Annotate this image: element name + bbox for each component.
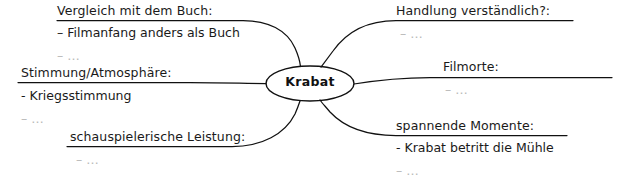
branch-heading-spannende: spannende Momente: [396, 119, 554, 136]
branch-heading-filmorte: Filmorte: [443, 60, 499, 77]
branch-item: – Filmanfang anders als Buch [57, 21, 240, 40]
branch-schauspielerische[interactable]: schauspielerische Leistung: – … [70, 130, 245, 167]
branch-item: – … [70, 147, 245, 167]
branch-vergleich[interactable]: Vergleich mit dem Buch: – Filmanfang and… [57, 4, 240, 63]
branch-filmorte[interactable]: Filmorte: – … [443, 60, 499, 97]
branch-heading-schauspielerische: schauspielerische Leistung: [70, 130, 245, 147]
branch-item: - Kriegsstimmung [21, 83, 172, 103]
branch-stimmung[interactable]: Stimmung/Atmosphäre: - Kriegsstimmung – … [21, 66, 172, 126]
branch-heading-stimmung: Stimmung/Atmosphäre: [21, 66, 172, 83]
branch-item: – … [443, 77, 499, 97]
branch-handlung[interactable]: Handlung verständlich?: – … [396, 4, 550, 41]
branch-item: – … [57, 40, 240, 63]
branch-spannende[interactable]: spannende Momente: - Krabat betritt die … [396, 119, 554, 178]
mindmap-canvas: Krabat Vergleich mit dem Buch: – Filmanf… [0, 0, 630, 183]
branch-heading-vergleich: Vergleich mit dem Buch: [57, 4, 240, 21]
branch-item: – … [21, 103, 172, 126]
branch-item: - Krabat betritt die Mühle [396, 136, 554, 155]
branch-heading-handlung: Handlung verständlich?: [396, 4, 550, 21]
center-node-label: Krabat [266, 74, 354, 89]
branch-item: – … [396, 21, 550, 41]
branch-item: – … [396, 155, 554, 178]
